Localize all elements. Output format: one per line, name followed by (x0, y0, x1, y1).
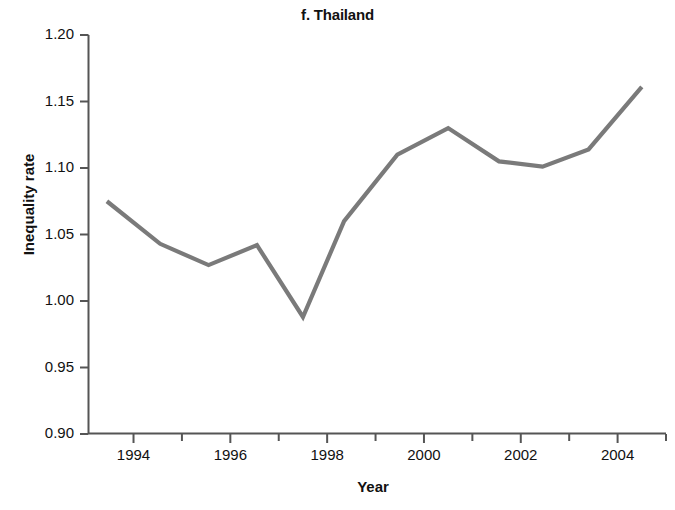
x-axis-ticks (134, 434, 666, 443)
data-line-inequality-rate (107, 87, 642, 317)
chart-figure: f. Thailand Inequality rate Year 1.201.1… (0, 0, 675, 510)
x-tick-label: 2002 (491, 446, 551, 463)
axis-lines (89, 35, 667, 434)
y-tick-label: 0.95 (22, 358, 74, 375)
y-tick-label: 1.15 (22, 92, 74, 109)
y-tick-label: 1.10 (22, 158, 74, 175)
y-tick-label: 1.05 (22, 225, 74, 242)
x-tick-label: 1994 (104, 446, 164, 463)
x-tick-label: 2004 (588, 446, 648, 463)
x-tick-label: 1998 (297, 446, 357, 463)
plot-area (0, 0, 675, 510)
x-tick-label: 2000 (394, 446, 454, 463)
y-tick-label: 1.00 (22, 291, 74, 308)
y-tick-label: 0.90 (22, 424, 74, 441)
x-tick-label: 1996 (200, 446, 260, 463)
y-tick-label: 1.20 (22, 25, 74, 42)
y-axis-ticks (80, 35, 89, 434)
